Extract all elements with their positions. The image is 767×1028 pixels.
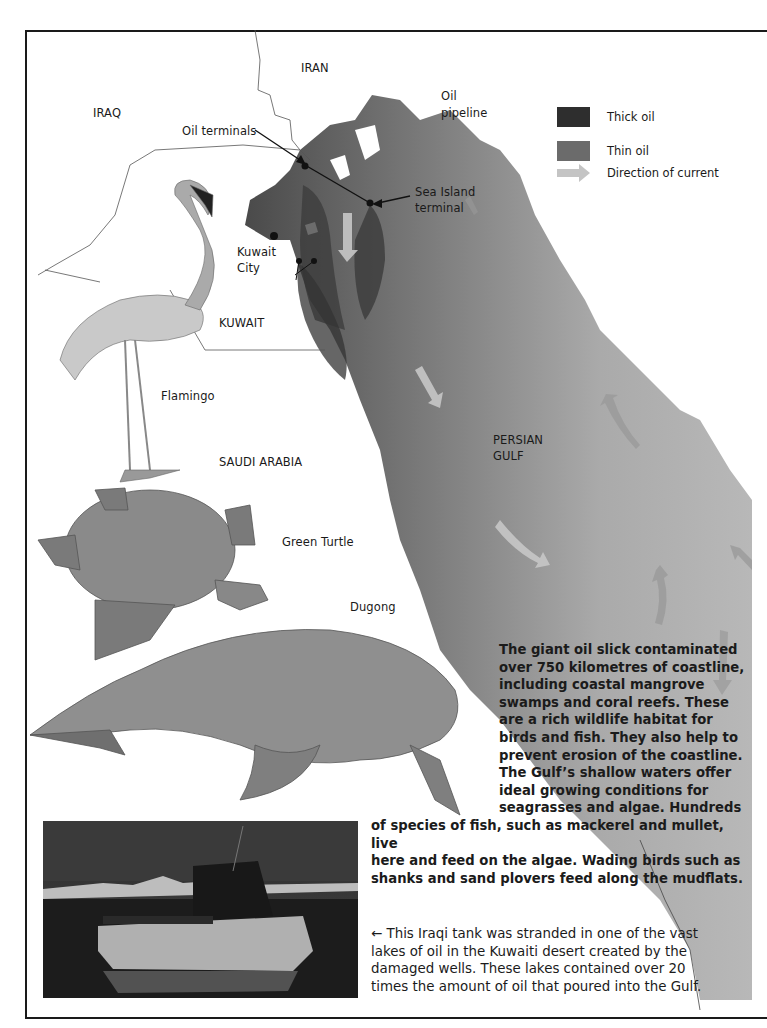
legend-label: Thick oil — [607, 110, 655, 124]
caption-line: times the amount of oil that poured into… — [371, 978, 701, 996]
label-kuwait: KUWAIT — [219, 316, 264, 331]
thick-oil-swatch — [557, 107, 590, 127]
text-line: prevent erosion of the coastline. — [499, 747, 744, 765]
iran-iraq-border — [255, 30, 310, 160]
text-line: The giant oil slick contaminated — [499, 641, 744, 659]
legend-label: Direction of current — [607, 166, 719, 180]
text-line: here and feed on the algae. Wading birds… — [371, 852, 752, 870]
legend-item-current: Direction of current — [557, 162, 719, 184]
caption-line: lakes of oil in the Kuwaiti desert creat… — [371, 943, 701, 961]
body-paragraph-wide: of species of fish, such as mackerel and… — [371, 817, 752, 887]
legend-item-thin-oil: Thin oil — [557, 140, 719, 162]
flamingo-illustration — [60, 180, 214, 482]
label-oil-terminals: Oil terminals — [182, 124, 256, 139]
label-sea-island-2: terminal — [415, 201, 464, 216]
body-paragraph-narrow: The giant oil slick contaminated over 75… — [499, 641, 744, 817]
text-line: The Gulf’s shallow waters offer — [499, 764, 744, 782]
legend-label: Thin oil — [607, 144, 649, 158]
text-line: are a rich wildlife habitat for — [499, 711, 744, 729]
text-line: including coastal mangrove — [499, 676, 744, 694]
label-saudi-arabia: SAUDI ARABIA — [219, 455, 302, 470]
text-line: birds and fish. They also help to — [499, 729, 744, 747]
label-dugong: Dugong — [350, 600, 396, 615]
terminal-dot — [302, 163, 309, 170]
tank-photo — [43, 821, 358, 998]
caption-line: damaged wells. These lakes contained ove… — [371, 960, 701, 978]
label-sea-island-1: Sea Island — [415, 185, 475, 200]
label-green-turtle: Green Turtle — [282, 535, 354, 550]
text-line: swamps and coral reefs. These — [499, 694, 744, 712]
label-iraq: IRAQ — [93, 106, 121, 121]
text-line: over 750 kilometres of coastline, — [499, 659, 744, 677]
text-line: of species of fish, such as mackerel and… — [371, 817, 752, 852]
oil-terminals-pointer — [255, 130, 303, 162]
thin-oil-swatch — [557, 141, 590, 161]
kuwait-city-dot — [270, 232, 278, 240]
green-turtle-illustration — [38, 488, 268, 660]
label-flamingo: Flamingo — [161, 389, 215, 404]
label-oil-pipeline-1: Oil — [441, 89, 457, 104]
label-iran: IRAN — [301, 61, 329, 76]
map-legend: Thick oil Thin oil Direction of current — [557, 106, 719, 196]
legend-item-thick-oil: Thick oil — [557, 106, 719, 128]
sea-island-dot — [367, 200, 374, 207]
text-line: ideal growing conditions for — [499, 782, 744, 800]
label-oil-pipeline-2: pipeline — [441, 106, 487, 121]
text-line: seagrasses and algae. Hundreds — [499, 799, 744, 817]
label-kuwait-city-1: Kuwait — [237, 245, 276, 260]
dugong-illustration — [30, 630, 460, 816]
text-line: shanks and sand plovers feed along the m… — [371, 870, 752, 888]
caption-line: ← This Iraqi tank was stranded in one of… — [371, 925, 701, 943]
label-persian-gulf-2: GULF — [493, 449, 524, 464]
label-persian-gulf-1: PERSIAN — [493, 433, 543, 448]
iraq-saudi-border — [45, 270, 100, 282]
photo-caption: ← This Iraqi tank was stranded in one of… — [371, 925, 701, 995]
label-kuwait-city-2: City — [237, 261, 260, 276]
current-arrow-icon — [557, 163, 590, 183]
